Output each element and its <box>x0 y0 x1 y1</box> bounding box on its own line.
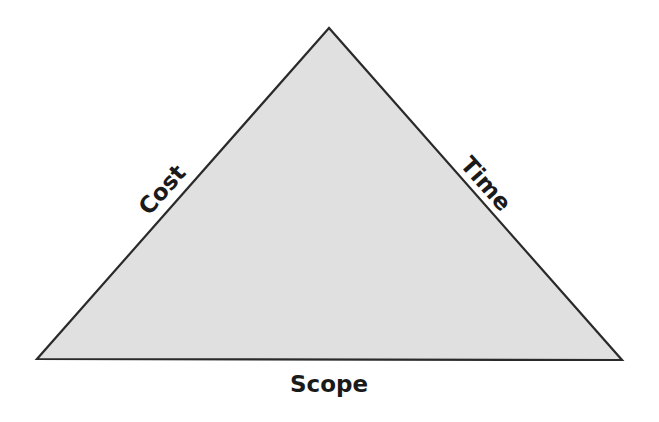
triangle-diagram: Cost Time Scope <box>0 0 659 422</box>
triangle-shape <box>37 28 622 360</box>
scope-label: Scope <box>290 371 368 397</box>
